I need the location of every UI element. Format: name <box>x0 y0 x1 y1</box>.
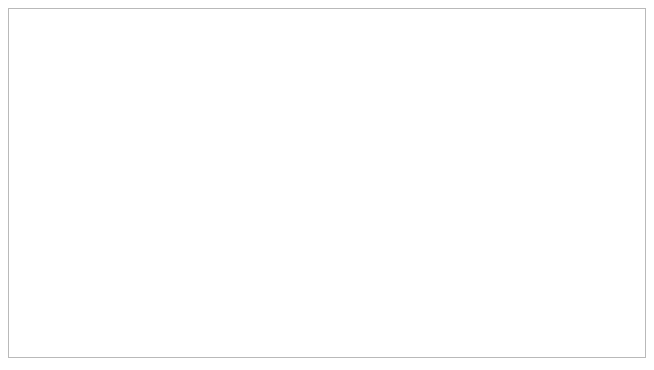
figure-container <box>0 0 654 370</box>
bottom-series-annotation <box>248 262 378 331</box>
top-series-annotation <box>330 74 440 143</box>
top-chart-y-axis-title <box>0 14 72 174</box>
bottom-chart-y-axis-title <box>11 192 59 332</box>
